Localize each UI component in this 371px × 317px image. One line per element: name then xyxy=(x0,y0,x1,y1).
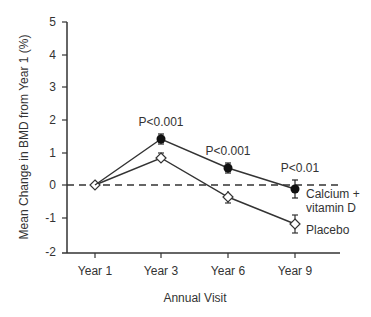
svg-text:Year 3: Year 3 xyxy=(144,264,179,278)
svg-text:P<0.001: P<0.001 xyxy=(205,144,250,158)
legend: Calcium + vitamin D Placebo xyxy=(306,187,360,237)
legend-calcium-line2: vitamin D xyxy=(306,201,356,215)
legend-calcium: Calcium + xyxy=(306,187,360,201)
y-tick-labels: 5 4 3 2 1 0 -1 -2 xyxy=(45,15,56,259)
svg-text:P<0.01: P<0.01 xyxy=(281,161,320,175)
y-axis-label: Mean Change in BMD from Year 1 (%) xyxy=(17,35,31,240)
svg-text:Year 9: Year 9 xyxy=(278,264,313,278)
legend-placebo: Placebo xyxy=(306,223,350,237)
svg-text:Year 6: Year 6 xyxy=(211,264,246,278)
svg-text:-1: -1 xyxy=(45,211,56,225)
svg-text:-2: -2 xyxy=(45,245,56,259)
svg-text:Year 1: Year 1 xyxy=(78,264,113,278)
x-tick-labels: Year 1 Year 3 Year 6 Year 9 xyxy=(78,264,313,278)
svg-text:5: 5 xyxy=(49,15,56,29)
svg-text:1: 1 xyxy=(49,146,56,160)
bmd-chart: 5 4 3 2 1 0 -1 -2 Mean Change in BMD fro… xyxy=(0,0,371,317)
svg-text:2: 2 xyxy=(49,113,56,127)
svg-text:4: 4 xyxy=(49,48,56,62)
series-placebo xyxy=(90,153,300,233)
svg-text:0: 0 xyxy=(49,178,56,192)
x-axis-label: Annual Visit xyxy=(163,291,227,305)
svg-text:3: 3 xyxy=(49,80,56,94)
svg-text:P<0.001: P<0.001 xyxy=(138,115,183,129)
series-calcium-vitamin-d xyxy=(95,134,300,198)
